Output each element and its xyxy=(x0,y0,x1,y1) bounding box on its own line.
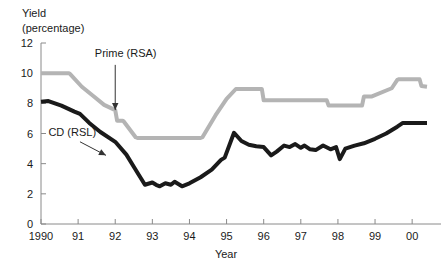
x-tick-label: 97 xyxy=(295,230,307,242)
y-axis-label-line1: Yield xyxy=(22,7,46,19)
cd-rsl-annotation-label: CD (RSL) xyxy=(48,126,96,138)
x-axis-label: Year xyxy=(215,248,238,260)
y-axis-label-line2: (percentage) xyxy=(22,22,84,34)
y-tick-label: 6 xyxy=(27,128,33,140)
y-tick-label: 12 xyxy=(21,37,33,49)
y-tick-label: 2 xyxy=(27,188,33,200)
y-tick-label: 8 xyxy=(27,97,33,109)
prime-rsa-annotation-label: Prime (RSA) xyxy=(95,47,157,59)
x-tick-label: 98 xyxy=(332,230,344,242)
x-tick-label: 91 xyxy=(72,230,84,242)
x-tick-label: 95 xyxy=(220,230,232,242)
x-tick-label: 93 xyxy=(146,230,158,242)
y-tick-label: 0 xyxy=(27,218,33,230)
y-tick-label: 10 xyxy=(21,67,33,79)
x-tick-label: 99 xyxy=(369,230,381,242)
x-tick-label: 92 xyxy=(109,230,121,242)
chart-canvas: Yield (percentage) 024681012 19909192939… xyxy=(0,0,448,271)
yield-line-chart-figure: Yield (percentage) 024681012 19909192939… xyxy=(0,0,448,271)
x-tick-label: 96 xyxy=(258,230,270,242)
x-tick-label: 94 xyxy=(183,230,195,242)
y-tick-label: 4 xyxy=(27,158,33,170)
x-tick-label: 1990 xyxy=(29,230,53,242)
x-tick-label: 00 xyxy=(406,230,418,242)
